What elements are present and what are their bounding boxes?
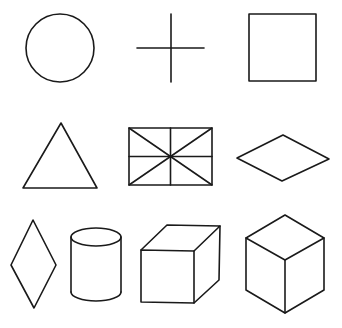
horizontal-diamond-shape: [237, 135, 329, 181]
oblique-cube-shape: [141, 225, 220, 303]
cylinder-shape: [71, 228, 121, 301]
square-shape: [249, 14, 316, 81]
isometric-cube-shape: [246, 215, 324, 313]
vertical-diamond-shape: [11, 220, 56, 308]
cross-shape: [137, 14, 204, 82]
triangle-shape: [23, 123, 97, 188]
circle-shape: [26, 14, 94, 82]
divided-rectangle-shape: [129, 128, 212, 185]
shapes-figure: [0, 0, 342, 328]
